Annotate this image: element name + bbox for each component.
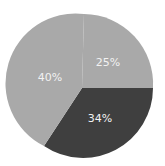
pie-label-40: 40%	[38, 71, 62, 84]
pie-chart: 25% 34% 40%	[0, 0, 165, 166]
pie-label-25: 25%	[96, 56, 120, 69]
pie-slice-25	[82, 14, 153, 88]
pie-label-34: 34%	[88, 112, 112, 125]
